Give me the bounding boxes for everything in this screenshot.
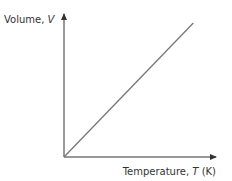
- chart: [0, 0, 232, 181]
- x-axis-label: Temperature, T (K): [123, 166, 216, 178]
- series-line-0: [64, 23, 193, 157]
- y-axis-label: Volume, V: [4, 14, 54, 26]
